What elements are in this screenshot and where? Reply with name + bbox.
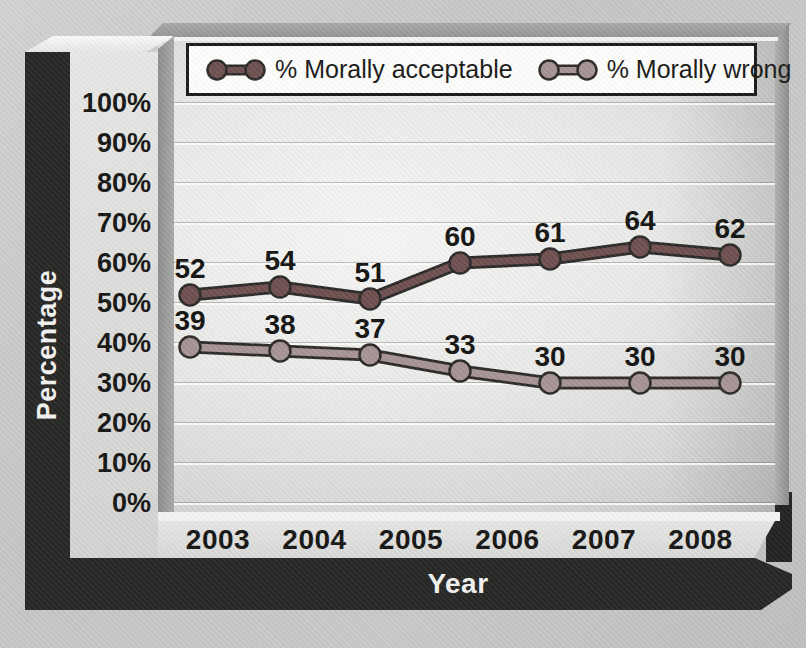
gridline	[158, 422, 775, 425]
y-tick-label: 90%	[71, 127, 151, 159]
y-axis-title: Percentage	[32, 270, 63, 421]
x-tick-label: 2007	[572, 524, 636, 556]
gridline	[158, 142, 775, 145]
chart-figure: 200320042005200620072008 100%90%80%70%60…	[0, 0, 806, 648]
y-axis-side-face	[158, 36, 174, 512]
y-tick-label: 20%	[71, 407, 151, 439]
x-axis-bevel	[158, 512, 780, 521]
y-tick-label: 40%	[71, 327, 151, 359]
plot-area	[158, 41, 775, 512]
y-tick-label: 0%	[71, 487, 151, 519]
gridline	[158, 182, 775, 185]
y-tick-label: 50%	[71, 287, 151, 319]
x-axis-title: Year	[427, 568, 488, 600]
gridline	[158, 262, 775, 265]
y-tick-label: 100%	[71, 87, 151, 119]
gridline	[158, 382, 775, 385]
x-tick-label: 2003	[186, 524, 250, 556]
legend-item-morally-wrong: % Morally wrong	[537, 55, 792, 84]
y-axis-top-face	[25, 36, 174, 52]
gridline	[158, 502, 775, 505]
x-tick-label: 2004	[282, 524, 346, 556]
x-tick-label: 2008	[668, 524, 732, 556]
gridline	[158, 102, 775, 105]
gridline	[158, 222, 775, 225]
gridline	[158, 462, 775, 465]
morally-acceptable-series-icon	[205, 57, 267, 83]
y-tick-label: 60%	[71, 247, 151, 279]
x-axis-tick-strip: 200320042005200620072008	[158, 521, 775, 558]
y-tick-label: 10%	[71, 447, 151, 479]
legend-item-morally-acceptable: % Morally acceptable	[205, 55, 513, 84]
y-tick-label: 70%	[71, 207, 151, 239]
legend-label: % Morally wrong	[607, 55, 792, 84]
legend: % Morally acceptable % Morally wrong	[186, 43, 757, 96]
morally-wrong-series-icon	[537, 57, 599, 83]
x-tick-label: 2006	[475, 524, 539, 556]
gridline	[158, 342, 775, 345]
gridline	[158, 302, 775, 305]
y-axis-tick-strip: 100%90%80%70%60%50%40%30%20%10%0%	[70, 52, 158, 558]
x-tick-label: 2005	[379, 524, 443, 556]
box-right-face	[775, 23, 789, 505]
y-tick-label: 30%	[71, 367, 151, 399]
legend-label: % Morally acceptable	[275, 55, 513, 84]
y-tick-label: 80%	[71, 167, 151, 199]
x-axis-title-bar	[25, 558, 792, 610]
